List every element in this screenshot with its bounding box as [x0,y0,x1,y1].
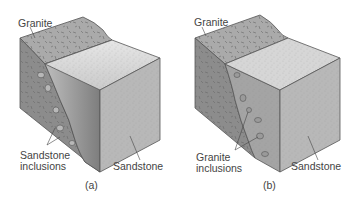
panel-a-sandstone-inclusions: Granite Sandstone inclusions Sandstone (… [0,0,180,203]
label-inclusions-line2: inclusions [196,163,242,174]
block-diagram-a [0,0,180,203]
label-inclusions-line2: inclusions [20,161,66,172]
label-sandstone: Sandstone [113,161,163,172]
label-sandstone: Sandstone [291,161,341,172]
label-granite: Granite [18,18,52,29]
caption-b: (b) [263,180,276,191]
panel-b-granite-inclusions: Granite Granite inclusions Sandstone (b) [180,0,360,203]
label-granite: Granite [194,17,228,28]
caption-a: (a) [85,180,98,191]
